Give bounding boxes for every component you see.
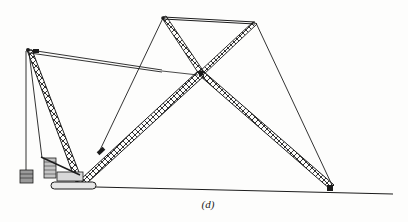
crane-diagram: [0, 0, 408, 222]
fly-jib-lattice: [199, 71, 334, 191]
strut-frame: [161, 16, 257, 76]
diagram-canvas: (d): [0, 0, 408, 222]
figure-caption: (d): [196, 198, 220, 210]
main-boom-lattice: [80, 71, 204, 184]
ground-line: [96, 187, 393, 194]
pendant-bar: [30, 49, 198, 75]
